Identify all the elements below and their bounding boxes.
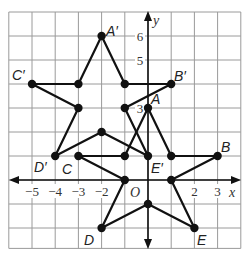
vertex-point — [97, 128, 105, 136]
vertex-point — [190, 224, 198, 232]
vertex-point — [121, 80, 129, 88]
vertex-point — [167, 152, 175, 160]
vertex-point — [74, 80, 82, 88]
x-tick-label: 2 — [191, 184, 198, 199]
x-axis-right-arrow-icon — [231, 176, 241, 184]
vertex-point — [121, 104, 129, 112]
vertex-point — [97, 224, 105, 232]
label-d-prime: D′ — [34, 159, 48, 175]
coordinate-plane-figure: −5−4−3−223653 x y O A B C D E A′ B′ C′ D… — [0, 0, 248, 255]
y-tick-label: 6 — [137, 29, 144, 44]
vertex-point — [97, 32, 105, 40]
origin-label: O — [130, 185, 140, 200]
vertex-point — [51, 152, 59, 160]
x-tick-label: −4 — [48, 184, 62, 199]
x-tick-label: 3 — [214, 184, 221, 199]
x-axis-label: x — [228, 185, 236, 200]
x-axis-left-arrow-icon — [9, 176, 19, 184]
x-tick-label: −5 — [25, 184, 39, 199]
label-e-prime: E′ — [151, 160, 164, 176]
vertex-point — [74, 152, 82, 160]
label-d: D — [84, 232, 94, 248]
label-c: C — [62, 161, 73, 177]
y-axis-label: y — [151, 13, 160, 28]
y-tick-label: 5 — [137, 53, 144, 68]
x-tick-label: −3 — [71, 184, 85, 199]
vertex-labels: A B C D E A′ B′ C′ D′ E′ — [12, 23, 230, 248]
vertex-point — [167, 176, 175, 184]
vertex-point — [74, 104, 82, 112]
label-a: A — [150, 91, 160, 107]
vertex-point — [121, 152, 129, 160]
y-tick-label: 3 — [137, 101, 144, 116]
vertex-point — [121, 176, 129, 184]
label-c-prime: C′ — [12, 67, 26, 83]
grid-lines — [9, 12, 241, 248]
label-a-prime: A′ — [105, 23, 119, 39]
vertex-point — [144, 152, 152, 160]
label-b-prime: B′ — [174, 68, 187, 84]
x-tick-label: −2 — [95, 184, 109, 199]
label-e: E — [197, 232, 207, 248]
vertex-point — [28, 80, 36, 88]
vertex-point — [144, 200, 152, 208]
y-axis-down-arrow-icon — [144, 239, 152, 249]
label-b: B — [221, 139, 230, 155]
